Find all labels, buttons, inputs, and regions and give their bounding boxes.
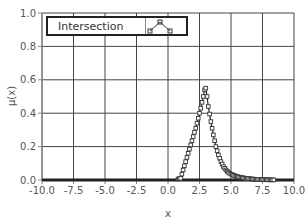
x-tick-label: 7.5 <box>255 185 271 196</box>
x-tick-label: 2.5 <box>192 185 208 196</box>
x-axis-title: x <box>165 208 171 219</box>
y-tick-label: 1.0 <box>20 8 36 19</box>
y-tick-label: 0.2 <box>20 141 36 152</box>
x-tick-label: 5.0 <box>223 185 239 196</box>
legend[interactable]: Intersection <box>46 16 188 36</box>
x-tick-label: -5.0 <box>95 185 115 196</box>
x-tick-label: -2.5 <box>127 185 147 196</box>
legend-label: Intersection <box>58 20 123 33</box>
y-tick-label: 0.6 <box>20 74 36 85</box>
y-axis-title: μ(x) <box>6 86 17 106</box>
y-tick-label: 0.8 <box>20 41 36 52</box>
y-tick-label: 0.4 <box>20 108 36 119</box>
y-tick-label: 0.0 <box>20 175 36 186</box>
x-tick-label: -7.5 <box>64 185 84 196</box>
x-tick-label: 0.0 <box>160 185 176 196</box>
line-with-square-markers-icon <box>145 18 176 34</box>
x-tick-label: 10.0 <box>283 185 305 196</box>
x-tick-labels: -10.0-7.5-5.0-2.50.02.55.07.510.0 <box>29 185 305 196</box>
y-tick-labels: 0.00.20.40.60.81.0 <box>20 8 36 186</box>
grid-lines <box>42 13 294 180</box>
x-tick-label: -10.0 <box>29 185 55 196</box>
